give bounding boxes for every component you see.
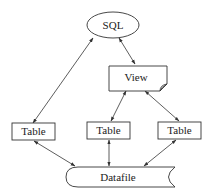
edges — [33, 38, 179, 166]
node-sql: SQL — [87, 12, 139, 38]
edge-sql-view — [119, 38, 135, 64]
view-label: View — [124, 71, 147, 83]
node-table-right: Table — [158, 122, 201, 139]
edge-table-right-datafile — [144, 140, 176, 166]
edge-sql-table-left — [33, 38, 93, 123]
datafile-label: Datafile — [100, 171, 136, 183]
node-table-mid: Table — [87, 122, 130, 139]
table-left-label: Table — [21, 125, 45, 137]
node-view: View — [109, 66, 167, 91]
table-mid-label: Table — [96, 124, 120, 136]
table-right-label: Table — [167, 124, 191, 136]
sql-label: SQL — [103, 19, 124, 31]
database-architecture-diagram: SQL View Table Table Table Datafile — [0, 0, 209, 195]
edge-table-left-datafile — [34, 141, 75, 166]
node-datafile: Datafile — [66, 167, 175, 187]
edge-view-table-mid — [111, 91, 126, 121]
node-table-left: Table — [12, 123, 55, 140]
edge-view-table-right — [145, 91, 179, 121]
